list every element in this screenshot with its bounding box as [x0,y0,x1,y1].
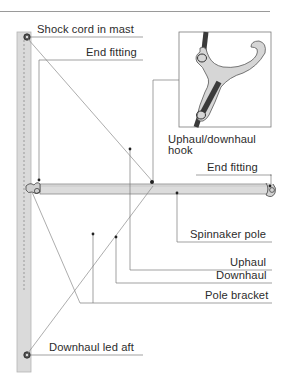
downhaul-line [28,186,153,353]
label-downhaul-led-aft: Downhaul led aft [49,341,134,353]
rigging-lines [28,39,153,353]
mast [17,32,31,372]
bracket-line [32,192,80,303]
uphaul-line [28,39,153,182]
label-pole-bracket: Pole bracket [205,289,268,301]
hook-inset [179,32,271,127]
label-uphaul: Uphaul [230,256,266,268]
label-spinnaker-pole: Spinnaker pole [190,228,266,240]
label-end-fitting-right: End fitting [207,161,258,173]
spinnaker-pole [26,183,276,197]
rigging-diagram [0,0,286,381]
label-hook-line2: hook [168,144,193,156]
label-downhaul: Downhaul [216,269,267,281]
label-end-fitting-top: End fitting [86,46,137,58]
pole-bracket-fitting [26,183,40,194]
label-shock-cord-in-mast: Shock cord in mast [37,23,134,35]
